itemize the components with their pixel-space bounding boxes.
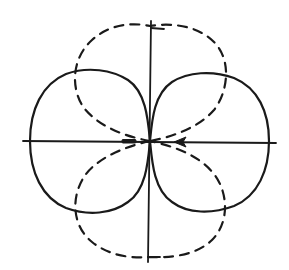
vertical-axis-top-tick <box>151 28 164 29</box>
radiation-pattern-diagram <box>0 0 289 270</box>
left-arrow-bar <box>122 140 136 144</box>
diagram-canvas <box>0 0 289 270</box>
